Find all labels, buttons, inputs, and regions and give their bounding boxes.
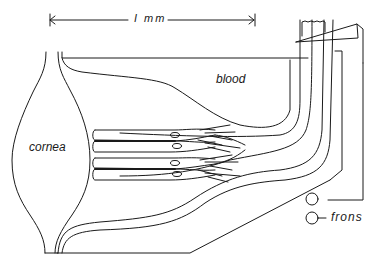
eye-cross-section-diagram [0,0,384,263]
frons-plate [306,193,326,224]
nerve-tract [57,20,342,253]
blood-sinus [62,52,308,127]
blood-label: blood [216,72,245,86]
frons-label: frons [331,210,363,224]
scale-bar-label: I mm [134,12,166,24]
electrode [296,21,363,200]
cornea-label: cornea [29,140,66,154]
